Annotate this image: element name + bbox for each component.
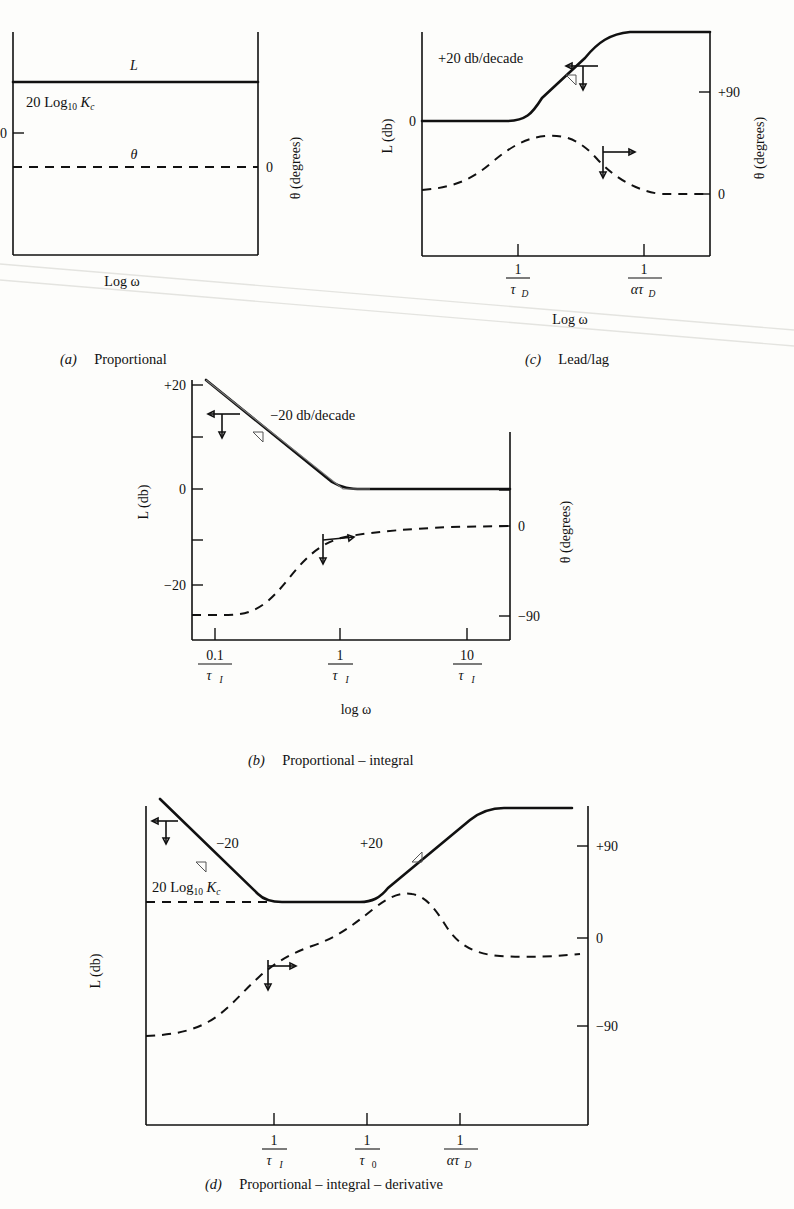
- svg-text:τ: τ: [510, 282, 516, 297]
- panel-b-arrow-to-theta: [320, 534, 354, 564]
- panel-d-right-tick-0: 0: [596, 931, 603, 946]
- panel-d-arrow-to-L: [152, 818, 178, 844]
- svg-text:1: 1: [515, 262, 522, 277]
- panel-a-caption: (a) Proportional: [60, 351, 167, 368]
- panel-b-left-tick-0: 0: [179, 482, 186, 497]
- panel-b-plot: +20 0 −20 0 −90 0.1 τ I 1: [110, 372, 670, 722]
- svg-text:I: I: [218, 675, 223, 685]
- panel-c-plot: 0 +90 0 1 τ D 1 ατ D +20: [330, 18, 794, 338]
- panel-b-slope-square-icon: [253, 432, 263, 442]
- svg-text:τ: τ: [266, 1153, 272, 1168]
- panel-d-xtick-1-over-alphatauD: 1 ατ D: [444, 1133, 478, 1170]
- panel-c-xtick-1-over-tauD: 1 τ D: [506, 262, 530, 299]
- panel-d-arrow-to-theta: [265, 960, 296, 990]
- svg-text:I: I: [470, 675, 475, 685]
- curve-theta-phase: [146, 894, 580, 1036]
- curve-L-asymptote: [206, 380, 370, 489]
- panel-d-caption-tag: (d): [205, 1176, 222, 1192]
- panel-c-right-tick-0: 0: [718, 187, 725, 202]
- panel-c-leadlag: 0 +90 0 1 τ D 1 ατ D +20: [330, 18, 794, 338]
- curve-theta-phase: [422, 136, 710, 194]
- curve-L-magnitude: [422, 32, 710, 121]
- svg-text:τ: τ: [359, 1153, 365, 1168]
- svg-text:D: D: [464, 1160, 472, 1170]
- panel-b-right-axis-title: θ (degrees): [558, 501, 574, 564]
- panel-a-curve-label-L: L: [129, 58, 138, 73]
- panel-b-slope-label: −20 db/decade: [270, 407, 355, 423]
- panel-b-xlabel: log ω: [341, 702, 372, 717]
- panel-c-slope-square-icon: [566, 75, 576, 85]
- panel-c-slope-label: +20 db/decade: [438, 50, 523, 66]
- figure-page: 0 0 L θ 20 Log10 Kc θ (degrees) Log ω 0: [0, 0, 794, 1209]
- panel-d-gain-level-label: 20 Log10 Kc: [152, 879, 221, 897]
- svg-text:τ: τ: [332, 668, 338, 683]
- panel-c-xtick-1-over-alphatauD: 1 ατ D: [628, 262, 662, 299]
- panel-c-left-tick-0: 0: [409, 114, 416, 129]
- panel-a-left-tick-0: 0: [0, 126, 7, 141]
- panel-b-caption-text: Proportional – integral: [282, 752, 413, 768]
- panel-d-caption: (d) Proportional – integral – derivative: [205, 1176, 443, 1193]
- panel-a-right-axis-title: θ (degrees): [288, 137, 304, 200]
- panel-c-arrow-to-theta: [600, 146, 635, 178]
- panel-b-right-tick-0: 0: [518, 519, 525, 534]
- panel-d-pid: +90 0 −90 1 τ I 1 τ 0 1: [60, 786, 740, 1206]
- panel-a-proportional: 0 0 L θ 20 Log10 Kc θ (degrees) Log ω: [0, 18, 330, 318]
- panel-b-right-tick-minus90: −90: [518, 609, 540, 624]
- svg-text:I: I: [344, 675, 349, 685]
- svg-text:ατ: ατ: [447, 1153, 460, 1168]
- panel-d-left-axis-title: L (db): [88, 953, 104, 988]
- panel-d-right-tick-plus90: +90: [596, 839, 618, 854]
- panel-a-caption-text: Proportional: [94, 351, 167, 367]
- svg-text:1: 1: [457, 1133, 464, 1148]
- panel-b-proportional-integral: +20 0 −20 0 −90 0.1 τ I 1: [110, 372, 670, 722]
- panel-b-caption: (b) Proportional – integral: [248, 752, 413, 769]
- svg-text:D: D: [648, 289, 656, 299]
- panel-d-slope-square-icon-left: [196, 862, 206, 872]
- panel-d-plot: +90 0 −90 1 τ I 1 τ 0 1: [60, 786, 740, 1206]
- panel-d-xtick-1-over-tau0: 1 τ 0: [355, 1133, 380, 1170]
- panel-b-caption-tag: (b): [248, 752, 265, 768]
- panel-c-right-tick-90: +90: [718, 85, 740, 100]
- panel-c-caption-text: Lead/lag: [558, 351, 609, 367]
- panel-c-arrow-to-L: [566, 63, 598, 90]
- panel-c-caption-tag: (c): [525, 351, 541, 367]
- panel-b-xtick-10-over-tauI: 10 τ I: [453, 648, 482, 685]
- panel-b-xtick-0p1-over-tauI: 0.1 τ I: [198, 648, 232, 685]
- panel-a-plot: 0 0 L θ 20 Log10 Kc θ (degrees) Log ω: [0, 18, 330, 318]
- svg-text:0: 0: [372, 1160, 377, 1170]
- svg-text:τ: τ: [458, 668, 464, 683]
- panel-a-gain-level-label: 20 Log10 Kc: [26, 94, 95, 112]
- svg-text:I: I: [278, 1160, 283, 1170]
- svg-text:1: 1: [337, 648, 344, 663]
- panel-d-slope-label-minus20: −20: [216, 835, 239, 851]
- panel-c-left-axis-title: L (db): [380, 118, 396, 153]
- svg-text:10: 10: [460, 648, 474, 663]
- panel-b-left-axis-title: L (db): [136, 484, 152, 519]
- curve-L-magnitude: [206, 380, 510, 489]
- panel-a-curve-label-theta: θ: [131, 147, 138, 162]
- panel-c-caption: (c) Lead/lag: [525, 351, 609, 368]
- panel-a-xlabel: Log ω: [104, 274, 139, 289]
- svg-text:τ: τ: [206, 668, 212, 683]
- panel-b-arrow-to-L: [208, 411, 240, 438]
- svg-text:1: 1: [364, 1133, 371, 1148]
- svg-text:1: 1: [271, 1133, 278, 1148]
- panel-a-caption-tag: (a): [60, 351, 77, 367]
- svg-text:0.1: 0.1: [206, 648, 224, 663]
- svg-text:ατ: ατ: [631, 282, 644, 297]
- panel-a-right-tick-0: 0: [266, 160, 273, 175]
- panel-d-xtick-1-over-tauI: 1 τ I: [262, 1133, 287, 1170]
- panel-c-right-axis-title: θ (degrees): [752, 117, 768, 180]
- svg-text:D: D: [521, 289, 529, 299]
- panel-d-slope-label-plus20: +20: [360, 835, 383, 851]
- panel-b-xtick-1-over-tauI: 1 τ I: [328, 648, 353, 685]
- panel-c-xlabel: Log ω: [552, 312, 587, 327]
- svg-text:1: 1: [641, 262, 648, 277]
- panel-d-right-tick-minus90: −90: [596, 1019, 618, 1034]
- panel-b-left-tick-minus20: −20: [164, 578, 186, 593]
- panel-b-left-tick-plus20: +20: [164, 378, 186, 393]
- panel-d-caption-text: Proportional – integral – derivative: [239, 1176, 443, 1192]
